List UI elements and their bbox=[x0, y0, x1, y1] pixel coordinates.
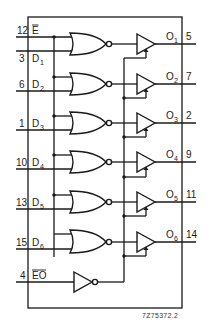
nor-gate-icon bbox=[70, 230, 106, 253]
svg-text:6: 6 bbox=[40, 243, 44, 250]
signal-name: O bbox=[166, 229, 174, 240]
signal-name: O bbox=[166, 71, 174, 82]
svg-text:5: 5 bbox=[174, 195, 178, 202]
pin-number: 9 bbox=[186, 149, 192, 160]
svg-text:3: 3 bbox=[40, 124, 44, 131]
pin-number: 11 bbox=[186, 189, 197, 200]
pin-number: 10 bbox=[16, 157, 28, 168]
inversion-bubble-icon bbox=[106, 41, 111, 46]
signal-name: D bbox=[32, 197, 39, 208]
svg-text:4: 4 bbox=[174, 155, 178, 162]
svg-text:5: 5 bbox=[40, 203, 44, 210]
pin-number: 7 bbox=[186, 71, 192, 82]
nor-gate-icon bbox=[70, 33, 106, 55]
signal-name: D bbox=[32, 53, 39, 64]
pin-number: 15 bbox=[16, 237, 28, 248]
signal-name: O bbox=[166, 189, 174, 200]
signal-name: O bbox=[166, 110, 174, 121]
pin-number: 1 bbox=[19, 118, 25, 129]
inversion-bubble-icon bbox=[106, 199, 111, 204]
svg-text:2: 2 bbox=[40, 85, 44, 92]
pin-number: 2 bbox=[186, 110, 192, 121]
pin-number: 14 bbox=[186, 229, 198, 240]
svg-text:1: 1 bbox=[174, 37, 178, 44]
svg-text:2: 2 bbox=[174, 77, 178, 84]
inversion-bubble-icon bbox=[106, 159, 111, 164]
pin-number: 13 bbox=[16, 197, 28, 208]
nor-gate-icon bbox=[70, 112, 106, 134]
nor-gate-icon bbox=[70, 73, 106, 95]
svg-text:6: 6 bbox=[174, 235, 178, 242]
nor-gate-icon bbox=[70, 191, 106, 213]
signal-name: D bbox=[32, 118, 39, 129]
inverter-icon bbox=[74, 272, 92, 292]
signal-name: D bbox=[32, 79, 39, 90]
pin-number: 5 bbox=[186, 31, 192, 42]
signal-name: D bbox=[32, 237, 39, 248]
logic-diagram: 12 E 3 D 1 6 D 2 1 D 3 10 D 4 13 D 5 15 … bbox=[0, 0, 209, 333]
inversion-bubble-icon bbox=[92, 279, 97, 284]
nor-gate-icon bbox=[70, 151, 106, 173]
pin-number: 4 bbox=[20, 270, 26, 281]
signal-name: D bbox=[32, 157, 39, 168]
svg-text:3: 3 bbox=[174, 116, 178, 123]
input-labels: 12 E 3 D 1 6 D 2 1 D 3 10 D 4 13 D 5 15 … bbox=[16, 25, 47, 281]
signal-name: EO bbox=[32, 270, 47, 281]
reference-code: 7Z75372.2 bbox=[142, 312, 178, 319]
signal-name: O bbox=[166, 31, 174, 42]
svg-text:1: 1 bbox=[40, 59, 44, 66]
inversion-bubble-icon bbox=[106, 120, 111, 125]
inversion-bubble-icon bbox=[106, 239, 111, 244]
pin-number: 12 bbox=[17, 25, 29, 36]
inversion-bubble-icon bbox=[106, 81, 111, 86]
svg-text:4: 4 bbox=[40, 163, 44, 170]
pin-number: 6 bbox=[19, 79, 25, 90]
pin-number: 3 bbox=[19, 53, 25, 64]
signal-name: E bbox=[32, 25, 39, 36]
signal-name: O bbox=[166, 149, 174, 160]
